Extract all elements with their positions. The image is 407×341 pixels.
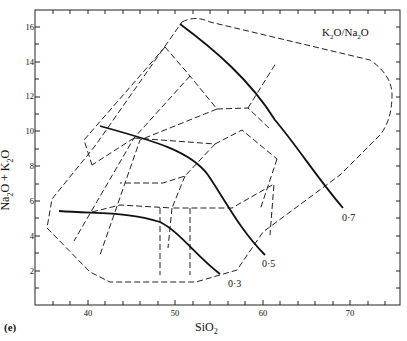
curve-ratio-0-5 <box>100 126 265 255</box>
y-tick-2: 2 <box>14 266 34 276</box>
y-tick-12: 12 <box>14 91 34 101</box>
y-tick-14: 14 <box>14 57 34 67</box>
y-tick-10: 10 <box>14 126 34 136</box>
x-tick-70: 70 <box>340 308 360 318</box>
y-axis-label: Na2O + K2O <box>0 150 15 211</box>
x-tick-40: 40 <box>78 308 98 318</box>
legend-title: K2O/Na2O <box>322 26 369 41</box>
x-tick-60: 60 <box>253 308 273 318</box>
y-tick-16: 16 <box>14 22 34 32</box>
curve-ratio-0-3 <box>59 211 220 274</box>
field-subdivisions <box>74 47 277 275</box>
diagram-canvas <box>0 0 407 341</box>
curve-label-0-7: 0·7 <box>342 212 355 223</box>
y-axis-ticks <box>35 27 400 288</box>
y-tick-8: 8 <box>14 161 34 171</box>
curve-ratio-0-7 <box>180 24 343 208</box>
x-tick-50: 50 <box>165 308 185 318</box>
curve-label-0-3: 0·3 <box>228 278 241 289</box>
field-outer-boundary <box>47 19 392 283</box>
x-axis-label: SiO2 <box>195 320 218 336</box>
panel-label: (e) <box>4 321 16 333</box>
curve-label-0-5: 0·5 <box>262 258 275 269</box>
y-tick-4: 4 <box>14 231 34 241</box>
y-tick-6: 6 <box>14 196 34 206</box>
